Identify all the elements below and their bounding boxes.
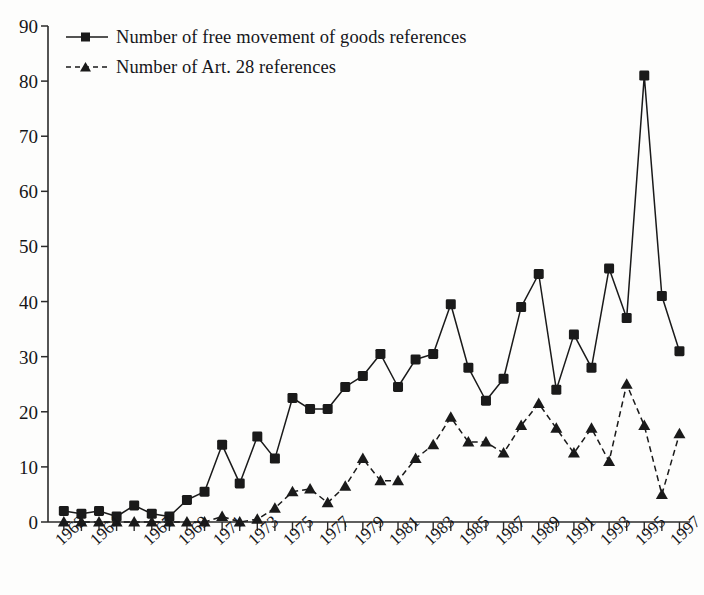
x-axis-tick-labels: 1962196419671969197119731975197719791981… (0, 0, 704, 595)
x-tick-label: 1989 (527, 513, 563, 549)
x-tick-label: 1969 (175, 513, 211, 549)
x-tick-label: 1993 (597, 513, 633, 549)
x-tick-label: 1987 (492, 513, 528, 549)
legend-label-art28: Number of Art. 28 references (110, 58, 336, 77)
x-tick-label: 1997 (667, 513, 703, 549)
x-tick-label: 1995 (632, 513, 668, 549)
chart-figure: 0102030405060708090 19621964196719691971… (0, 0, 704, 595)
legend-swatch-square-solid (64, 30, 110, 44)
x-tick-label: 1977 (316, 513, 352, 549)
x-tick-label: 1975 (280, 513, 316, 549)
legend-swatch-triangle-dashed (64, 60, 110, 74)
x-tick-label: 1962 (52, 513, 88, 549)
x-tick-label: 1985 (456, 513, 492, 549)
x-tick-label: 1967 (140, 513, 176, 549)
chart-legend: Number of free movement of goods referen… (64, 22, 494, 82)
x-tick-label: 1981 (386, 513, 422, 549)
legend-item-art28: Number of Art. 28 references (64, 52, 494, 82)
x-tick-label: 1964 (87, 513, 123, 549)
legend-label-goods: Number of free movement of goods referen… (110, 28, 467, 47)
x-tick-label: 1973 (245, 513, 281, 549)
x-tick-label: 1971 (210, 513, 246, 549)
x-tick-label: 1979 (351, 513, 387, 549)
legend-item-goods: Number of free movement of goods referen… (64, 22, 494, 52)
x-tick-label: 1991 (562, 513, 598, 549)
x-tick-label: 1983 (421, 513, 457, 549)
